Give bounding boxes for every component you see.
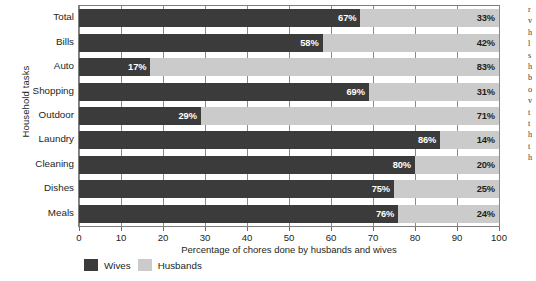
x-axis-tick [205,227,206,231]
bar-value-label: 31% [477,87,495,97]
bar-segment-husbands[interactable]: 25% [394,180,499,198]
bar-segment-husbands[interactable]: 31% [369,83,499,101]
x-axis-tick [415,227,416,231]
margin-text-line: b [528,72,536,83]
margin-text-line: r [528,4,536,15]
y-axis-tick-label: Total [14,12,74,22]
bar-value-label: 71% [477,111,495,121]
bar-segment-wives[interactable]: 80% [79,156,415,174]
chart-legend: WivesHusbands [84,259,202,271]
x-axis-title: Percentage of chores done by husbands an… [78,244,500,255]
bar-value-label: 24% [477,209,495,219]
bar-value-label: 58% [300,38,318,48]
x-axis-tick-label: 100 [491,232,507,243]
y-axis-tick-label: Auto [14,61,74,71]
x-axis-tick-label: 30 [200,232,211,243]
margin-text-line: t [528,141,536,152]
bar-row[interactable]: 17%83% [79,58,499,76]
y-axis-tick-label: Shopping [14,86,74,96]
bar-segment-husbands[interactable]: 33% [360,9,499,27]
bar-segment-wives[interactable]: 17% [79,58,150,76]
margin-text-line: v [528,15,536,26]
y-axis-tick-label: Dishes [14,183,74,193]
bar-row[interactable]: 69%31% [79,83,499,101]
x-axis-tick-label: 10 [116,232,127,243]
margin-text-line: h [528,27,536,38]
y-axis-tick-label: Cleaning [14,159,74,169]
y-axis-tick-label: Bills [14,37,74,47]
bar-value-label: 17% [128,62,146,72]
bar-value-label: 69% [346,87,364,97]
bar-segment-husbands[interactable]: 71% [201,107,499,125]
x-gridline [499,6,500,226]
bar-segment-wives[interactable]: 86% [79,131,440,149]
stacked-bar-chart-figure: Household tasks TotalBillsAutoShoppingOu… [0,0,536,281]
margin-text-line: t [528,107,536,118]
x-axis-tick [79,227,80,231]
bar-row[interactable]: 75%25% [79,180,499,198]
bar-value-label: 67% [338,13,356,23]
margin-text-line: t [528,118,536,129]
bar-segment-wives[interactable]: 58% [79,34,323,52]
y-axis-tick-label: Outdoor [14,110,74,120]
margin-text-line: v [528,95,536,106]
legend-item-husbands[interactable]: Husbands [138,259,202,271]
bar-value-label: 25% [477,184,495,194]
x-axis-tick-label: 20 [158,232,169,243]
bar-value-label: 75% [372,184,390,194]
x-axis-tick-label: 90 [452,232,463,243]
bar-segment-wives[interactable]: 67% [79,9,360,27]
margin-text-line: h [528,129,536,140]
bar-segment-husbands[interactable]: 14% [440,131,499,149]
legend-label: Husbands [158,260,202,271]
x-axis: 0102030405060708090100 [78,227,500,228]
bar-value-label: 83% [477,62,495,72]
x-axis-tick-label: 40 [242,232,253,243]
x-axis-tick-label: 80 [410,232,421,243]
bar-value-label: 20% [477,160,495,170]
bar-segment-husbands[interactable]: 42% [323,34,499,52]
margin-text-line: h [528,61,536,72]
x-axis-tick [373,227,374,231]
bar-segment-husbands[interactable]: 20% [415,156,499,174]
bar-value-label: 86% [418,135,436,145]
bar-segment-wives[interactable]: 76% [79,205,398,223]
y-axis-tick-label: Meals [14,208,74,218]
bar-segment-wives[interactable]: 69% [79,83,369,101]
margin-text-line: o [528,84,536,95]
plot-area: 67%33%58%42%17%83%69%31%29%71%86%14%80%2… [78,5,500,227]
y-axis-tick-label: Laundry [14,134,74,144]
bar-value-label: 29% [178,111,196,121]
legend-label: Wives [104,260,131,271]
margin-text-line: h [528,152,536,163]
legend-swatch-icon [138,259,152,271]
bar-value-label: 80% [393,160,411,170]
bar-value-label: 76% [376,209,394,219]
bar-row[interactable]: 29%71% [79,107,499,125]
bar-segment-wives[interactable]: 75% [79,180,394,198]
bar-segment-husbands[interactable]: 83% [150,58,499,76]
bar-segment-wives[interactable]: 29% [79,107,201,125]
page-margin-text-sliver: rvhlshbovtthth [528,4,536,174]
bar-row[interactable]: 67%33% [79,9,499,27]
y-axis-category-labels: TotalBillsAutoShoppingOutdoorLaundryClea… [14,5,74,227]
x-axis-tick-label: 50 [284,232,295,243]
x-axis-tick [331,227,332,231]
x-axis-tick [457,227,458,231]
legend-item-wives[interactable]: Wives [84,259,131,271]
bar-row[interactable]: 76%24% [79,205,499,223]
bar-value-label: 33% [477,13,495,23]
x-axis-tick [163,227,164,231]
x-axis-tick-label: 60 [326,232,337,243]
margin-text-line: s [528,50,536,61]
bar-row[interactable]: 58%42% [79,34,499,52]
bar-row[interactable]: 80%20% [79,156,499,174]
margin-text-line: l [528,38,536,49]
x-axis-tick-label: 70 [368,232,379,243]
bar-segment-husbands[interactable]: 24% [398,205,499,223]
bar-row[interactable]: 86%14% [79,131,499,149]
legend-swatch-icon [84,259,98,271]
x-axis-tick [121,227,122,231]
x-axis-tick-label: 0 [76,232,81,243]
x-axis-tick [247,227,248,231]
